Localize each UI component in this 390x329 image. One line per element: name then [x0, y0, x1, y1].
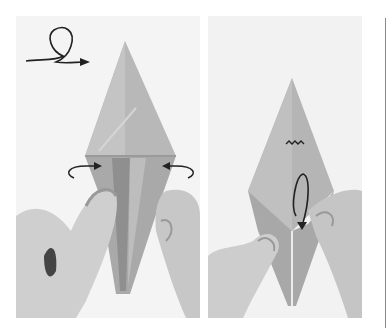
- origami-step-left-illustration: [16, 16, 200, 318]
- step-photo-left: [16, 16, 200, 318]
- turn-over-icon: [26, 28, 84, 63]
- step-photo-right: [208, 16, 362, 318]
- page-divider: [385, 18, 386, 328]
- origami-step-right-illustration: [208, 16, 362, 318]
